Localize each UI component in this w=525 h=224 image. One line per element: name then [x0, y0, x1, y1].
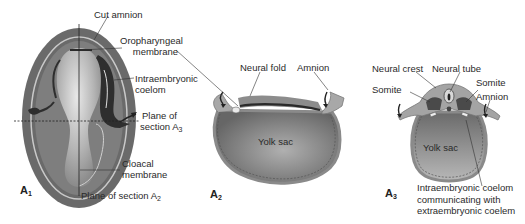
- label-oropharyngeal-membrane: Oropharyngeal membrane: [120, 35, 183, 57]
- label-plane-a3-line2: section A: [140, 121, 179, 132]
- label-intraembryonic-line1: Intraembryonic: [135, 73, 198, 84]
- label-coelom-line3: extraembryonic coelem: [417, 205, 515, 217]
- label-somite-right: Somite: [476, 77, 506, 88]
- label-coelom-line2: communicating with: [417, 194, 515, 206]
- label-plane-section-a2: Plane of section A2: [81, 190, 161, 204]
- label-yolk-sac-a3: Yolk sac: [423, 142, 458, 153]
- label-plane-a3-line1: Plane of: [140, 110, 182, 121]
- panel-a1-letter: A: [20, 184, 28, 196]
- label-neural-crest: Neural crest: [372, 63, 423, 74]
- label-plane-section-a3: Plane of section A3: [140, 110, 182, 135]
- label-coelom-line1: Intraembryonic coelom: [417, 182, 515, 194]
- panel-label-a1: A1: [20, 184, 32, 197]
- label-plane-a2-text: Plane of section A: [81, 190, 157, 201]
- label-intraembryonic-coelom: Intraembryonic coelom: [135, 73, 198, 95]
- panel-a3-subscript: 3: [393, 193, 397, 200]
- label-somite-left: Somite: [372, 84, 402, 95]
- panel-a2-letter: A: [210, 188, 218, 200]
- label-cloacal-line2: membrane: [122, 169, 167, 180]
- panel-label-a2: A2: [210, 188, 222, 201]
- label-intraembryonic-line2: coelom: [135, 84, 198, 95]
- label-cut-amnion: Cut amnion: [94, 9, 143, 20]
- panel-a3-artwork: [397, 72, 500, 186]
- label-plane-a3-subscript: 3: [179, 126, 183, 133]
- panel-a3-letter: A: [385, 187, 393, 199]
- label-oropharyngeal-line1: Oropharyngeal: [120, 35, 183, 46]
- panel-label-a3: A3: [385, 187, 397, 200]
- label-cloacal-line1: Cloacal: [122, 158, 167, 169]
- label-plane-a2-subscript: 2: [157, 195, 161, 202]
- label-amnion-a3: Amnion: [476, 91, 508, 102]
- label-cloacal-membrane: Cloacal membrane: [122, 158, 167, 180]
- embryo-diagram-figure: Cut amnion Oropharyngeal membrane Intrae…: [0, 0, 525, 224]
- panel-a2-subscript: 2: [218, 194, 222, 201]
- label-amnion-a2: Amnion: [297, 62, 329, 73]
- label-oropharyngeal-line2: membrane: [120, 46, 183, 57]
- label-yolk-sac-a2: Yolk sac: [258, 136, 293, 147]
- panel-a1-subscript: 1: [28, 190, 32, 197]
- label-neural-tube: Neural tube: [432, 63, 481, 74]
- label-intraembryonic-coelom-communicating: Intraembryonic coelom communicating with…: [417, 182, 515, 217]
- label-neural-fold: Neural fold: [240, 62, 286, 73]
